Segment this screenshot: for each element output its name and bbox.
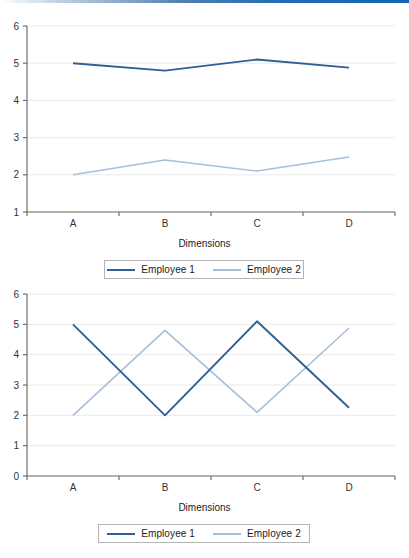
x-axis-tick-label: C — [253, 218, 260, 229]
x-axis-tick-label: A — [70, 218, 77, 229]
x-axis-tick-label: A — [70, 482, 77, 493]
legend-label: Employee 2 — [247, 264, 301, 275]
y-axis-tick-label: 4 — [13, 95, 19, 106]
y-axis-tick-label: 0 — [13, 471, 19, 482]
legend-entry[interactable]: Employee 1 — [98, 528, 204, 539]
legend-swatch-icon — [213, 269, 241, 271]
top-accent-bar — [0, 0, 409, 3]
y-axis-tick-label: 2 — [13, 169, 19, 180]
y-axis-tick-label: 6 — [13, 289, 19, 300]
y-axis-tick-label: 4 — [13, 349, 19, 360]
x-axis-title-bottom: Dimensions — [0, 502, 409, 513]
series-line-2 — [73, 328, 349, 415]
legend-entry[interactable]: Employee 2 — [204, 264, 310, 275]
x-axis-tick-label: B — [162, 482, 169, 493]
chart-panel-top: 123456ABCD Dimensions Employee 1Employee… — [0, 4, 409, 286]
legend-entry[interactable]: Employee 2 — [204, 528, 310, 539]
legend-swatch-icon — [213, 533, 241, 535]
series-line-2 — [73, 157, 349, 175]
plot-area-bottom: 0123456ABCD — [0, 286, 409, 498]
y-axis-tick-label: 1 — [13, 207, 19, 218]
y-axis-tick-label: 1 — [13, 440, 19, 451]
legend-swatch-icon — [107, 269, 135, 271]
y-axis-tick-label: 5 — [13, 58, 19, 69]
legend-label: Employee 1 — [141, 264, 195, 275]
line-chart-bottom: 0123456ABCD — [0, 286, 409, 498]
y-axis-tick-label: 5 — [13, 319, 19, 330]
x-axis-tick-label: B — [162, 218, 169, 229]
y-axis-tick-label: 3 — [13, 380, 19, 391]
chart-panel-bottom: 0123456ABCD Dimensions Employee 1Employe… — [0, 286, 409, 558]
legend-label: Employee 2 — [247, 528, 301, 539]
legend-top: Employee 1Employee 2 — [104, 260, 304, 279]
x-axis-tick-label: D — [345, 482, 352, 493]
plot-area-top: 123456ABCD — [0, 4, 409, 234]
legend-swatch-icon — [107, 533, 135, 535]
x-axis-tick-label: D — [345, 218, 352, 229]
x-axis-tick-label: C — [253, 482, 260, 493]
line-chart-top: 123456ABCD — [0, 4, 409, 234]
x-axis-title-top: Dimensions — [0, 238, 409, 249]
legend-bottom: Employee 1Employee 2 — [98, 524, 310, 543]
series-line-1 — [73, 59, 349, 70]
y-axis-tick-label: 2 — [13, 410, 19, 421]
legend-entry[interactable]: Employee 1 — [98, 264, 204, 275]
y-axis-tick-label: 6 — [13, 21, 19, 32]
legend-label: Employee 1 — [141, 528, 195, 539]
y-axis-tick-label: 3 — [13, 132, 19, 143]
series-line-1 — [73, 321, 349, 415]
